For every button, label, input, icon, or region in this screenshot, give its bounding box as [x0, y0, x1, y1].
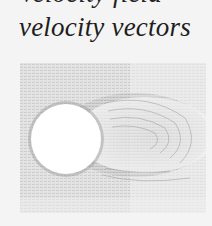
caption-line-partial: Velocity field: [19, 0, 162, 9]
velocity-vector-figure: [20, 63, 206, 213]
figure-caption: velocity vectors: [19, 12, 191, 43]
cylinder: [31, 104, 101, 174]
flow-field-plot: [20, 63, 206, 213]
